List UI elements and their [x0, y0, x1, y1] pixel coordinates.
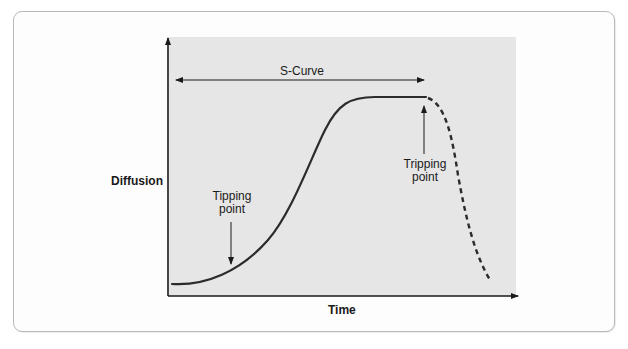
tripping-point-label: Tripping point: [397, 158, 453, 184]
plot-area: [169, 37, 516, 296]
tipping-point-line2: point: [206, 203, 258, 216]
x-axis-label: Time: [328, 304, 356, 317]
y-axis-label: Diffusion: [111, 175, 163, 188]
tripping-point-line2: point: [397, 171, 453, 184]
s-curve-label: S-Curve: [280, 65, 324, 78]
s-curve-diagram: [0, 0, 628, 349]
tipping-point-label: Tipping point: [206, 190, 258, 216]
